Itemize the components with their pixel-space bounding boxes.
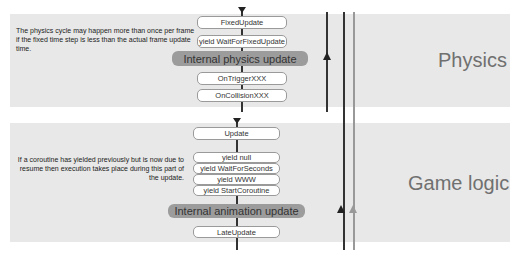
step-on-trigger: OnTriggerXXX (197, 72, 287, 85)
game-logic-entry-arrow-icon (233, 118, 241, 124)
physics-note: The physics cycle may happen more than o… (16, 26, 196, 53)
game-logic-label: Game logic (408, 172, 509, 195)
physics-loop-arrow-icon (323, 52, 331, 60)
step-yield-www: yield WWW (193, 174, 280, 185)
step-on-collision: OnCollisionXXX (197, 89, 287, 102)
frame-loop-gray-arrow-icon (349, 205, 357, 213)
step-internal-animation-update: Internal animation update (168, 204, 305, 218)
frame-loop-arrow-icon (337, 205, 345, 213)
physics-label: Physics (438, 49, 507, 72)
frame-loop-line (343, 12, 345, 250)
step-late-update: LateUpdate (193, 226, 280, 238)
step-fixed-update: FixedUpdate (197, 16, 287, 29)
step-yield-null: yield null (193, 152, 280, 163)
physics-entry-arrow-icon (238, 7, 246, 13)
step-update: Update (193, 127, 280, 140)
physics-loop-line (326, 12, 328, 112)
step-yield-wait-for-seconds: yield WaitForSeconds (193, 163, 280, 174)
step-yield-wait-for-fixed-update: yield WaitForFixedUpdate (197, 35, 287, 48)
step-yield-start-coroutine: yield StartCoroutine (193, 185, 280, 196)
game-logic-note: If a coroutine has yielded previously bu… (12, 155, 184, 182)
frame-loop-line-gray (353, 12, 355, 250)
step-internal-physics-update: Internal physics update (172, 51, 308, 66)
